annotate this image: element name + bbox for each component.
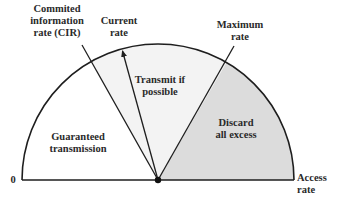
transmit-region-label: Transmit if possible [124,74,196,98]
maximum-rate-label: Maximum rate [212,19,268,43]
discard-label-line-1: Discard [204,117,268,129]
zero-label: 0 [8,174,18,186]
transmit-label-line-1: Transmit if [124,74,196,86]
zero-label-text: 0 [8,174,18,186]
access-rate-label: Access rate [297,172,339,196]
maximum-rate-label-line-2: rate [212,31,268,43]
guaranteed-label-line-2: transmission [38,143,118,155]
discard-label-line-2: all excess [204,129,268,141]
current-rate-label: Current rate [96,15,142,39]
current-rate-label-line-2: rate [96,27,142,39]
guaranteed-region-label: Guaranteed transmission [38,131,118,155]
discard-region-label: Discard all excess [204,117,268,141]
access-rate-label-line-2: rate [297,184,339,196]
guaranteed-label-line-1: Guaranteed [38,131,118,143]
cir-label: Commited information rate (CIR) [18,3,96,39]
cir-label-line-2: information [18,15,96,27]
transmit-label-line-2: possible [124,86,196,98]
gauge-pivot-dot [155,177,161,183]
cir-label-line-1: Commited [18,3,96,15]
maximum-rate-label-line-1: Maximum [212,19,268,31]
access-rate-label-line-1: Access [297,172,339,184]
cir-label-line-3: rate (CIR) [18,27,96,39]
current-rate-label-line-1: Current [96,15,142,27]
